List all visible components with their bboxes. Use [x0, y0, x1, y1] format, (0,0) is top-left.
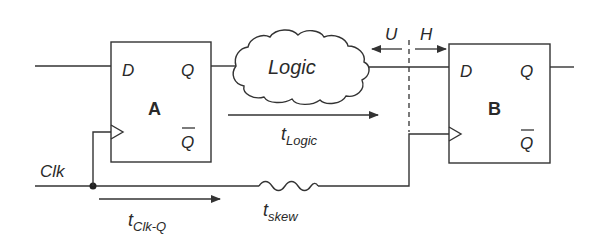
- clock-to-a-wire: [93, 132, 111, 186]
- hold-label: H: [420, 25, 433, 44]
- ff-a-q-pin: Q: [181, 61, 194, 80]
- skew-delay-icon: [259, 182, 318, 191]
- flipflop-a: D Q A Q: [111, 42, 211, 162]
- setup-label: U: [385, 25, 398, 44]
- clock-triangle-icon: [111, 125, 123, 139]
- ff-a-d-pin: D: [122, 61, 134, 80]
- ff-b-q-pin: Q: [520, 62, 533, 81]
- ff-a-label: A: [148, 99, 161, 119]
- t-clkq-label: tClk-Q: [128, 210, 166, 234]
- t-skew-label: tskew: [263, 200, 299, 224]
- clock-label: Clk: [40, 162, 66, 181]
- logic-cloud: Logic: [233, 30, 369, 104]
- ff-b-d-pin: D: [460, 62, 472, 81]
- logic-label: Logic: [268, 56, 316, 78]
- clock-triangle-icon: [449, 127, 461, 141]
- ff-a-qbar-pin: Q: [181, 133, 194, 152]
- clock-to-b-wire: [318, 134, 449, 186]
- ff-b-qbar-pin: Q: [520, 134, 533, 153]
- ff-b-label: B: [488, 99, 501, 119]
- timing-diagram: D Q A Q Logic U H D Q B Q tLogic Clk: [0, 0, 603, 238]
- flipflop-b: D Q B Q: [449, 44, 550, 163]
- t-logic-label: tLogic: [281, 124, 318, 148]
